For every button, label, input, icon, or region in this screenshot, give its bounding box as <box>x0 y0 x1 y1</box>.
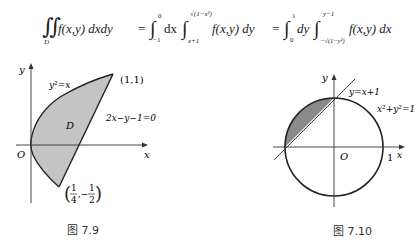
line-y-x-plus-1 <box>274 79 355 160</box>
line-label: 2x−y−1=0 <box>105 113 156 123</box>
figure-7-9-caption: 图 7.9 <box>67 221 99 237</box>
x-axis-label: x <box>144 149 150 160</box>
tick-label-1: 1 <box>387 152 393 163</box>
x-axis-arrow-icon <box>399 145 405 150</box>
y-axis-arrow-icon <box>332 74 337 80</box>
svg-text:): ) <box>95 183 102 204</box>
y-axis-arrow-icon <box>29 63 34 69</box>
origin-label: O <box>17 149 25 160</box>
svg-text:1: 1 <box>71 183 77 193</box>
region-label: D <box>65 120 74 131</box>
x-axis-arrow-icon <box>142 143 148 148</box>
svg-text:1: 1 <box>89 183 95 193</box>
figure-7-9: y x O D y²=x (1,1) 2x−y−1=0 ( 1 4 ,− 1 2… <box>0 0 210 246</box>
figure-7-10-caption: 图 7.10 <box>333 222 372 238</box>
y-axis-label: y <box>18 64 25 75</box>
figure-7-10: y x O 1 y=x+1 x²+y²=1 <box>210 0 420 246</box>
svg-text:4: 4 <box>71 195 77 205</box>
circle-label: x²+y²=1 <box>377 104 415 114</box>
y-axis-label: y <box>321 72 328 83</box>
svg-text:,−: ,− <box>78 189 88 199</box>
parabola-label: y²=x <box>48 80 70 90</box>
x-axis-label: x <box>397 150 402 160</box>
svg-text:2: 2 <box>89 195 95 205</box>
origin-label: O <box>340 151 348 162</box>
point-bottom-label: ( 1 4 ,− 1 2 ) <box>64 183 102 205</box>
svg-text:(: ( <box>64 183 71 204</box>
point-top-label: (1,1) <box>120 74 144 85</box>
line-label: y=x+1 <box>348 87 380 97</box>
